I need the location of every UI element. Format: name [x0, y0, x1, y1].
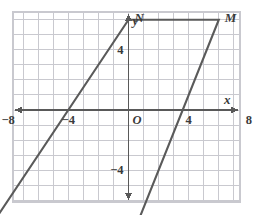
coordinate-plane-figure: −12 −8 −4 4 8 12 8 4 −4 8 O x y N M P Q	[0, 0, 253, 215]
axes	[15, 14, 238, 200]
gridlines	[13, 12, 240, 202]
x-axis-label: x	[224, 93, 231, 106]
plot-canvas	[0, 0, 253, 215]
x-tick-label-4: 4	[186, 114, 192, 127]
origin-label: O	[133, 114, 142, 127]
x-tick-label--4: −4	[62, 114, 75, 127]
y-tick-label--4: −4	[110, 164, 123, 177]
vertex-label-m: M	[225, 11, 237, 24]
x-tick-label-8: 8	[246, 114, 252, 127]
grid-frame	[13, 12, 240, 202]
x-tick-label--8: −8	[1, 114, 14, 127]
y-tick-label-4: 4	[117, 44, 123, 57]
vertex-label-n: N	[135, 11, 144, 24]
